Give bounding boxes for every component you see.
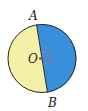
circle-diagram: A O B <box>0 0 88 111</box>
center-dot <box>39 57 42 60</box>
label-b: B <box>47 96 57 110</box>
label-o: O <box>28 52 38 66</box>
label-a: A <box>28 9 38 23</box>
